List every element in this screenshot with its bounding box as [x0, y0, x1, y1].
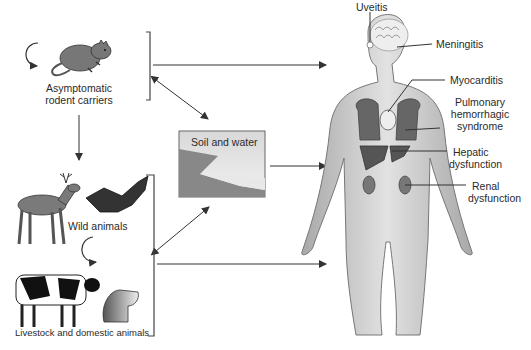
cycle-arrow-icon	[26, 43, 38, 66]
cycle-arrow-icon	[82, 237, 96, 262]
rodent-label: Asymptomatic rodent carriers	[34, 82, 124, 106]
label-hepatic-line1: Hepatic	[449, 146, 502, 158]
label-pulmonary-line3: syndrome	[440, 120, 520, 132]
human-body	[302, 15, 472, 335]
label-renal-line1: Renal	[468, 180, 521, 192]
label-pulmonary-line2: hemorrhagic	[440, 108, 520, 120]
label-myocarditis: Myocarditis	[450, 74, 503, 86]
wild-animals-label: Wild animals	[68, 220, 128, 232]
arrow-rodent-soil	[156, 80, 208, 119]
label-pulmonary-line1: Pulmonary	[440, 96, 520, 108]
rodent-label-line2: rodent carriers	[34, 94, 124, 106]
livestock-label: Livestock and domestic animals	[15, 327, 149, 339]
label-uveitis: Uveitis	[356, 1, 388, 13]
label-renal-line2: dysfunction	[468, 192, 521, 204]
label-pulmonary: Pulmonary hemorrhagic syndrome	[440, 96, 520, 132]
label-meningitis: Meningitis	[436, 38, 483, 50]
soil-water-label: Soil and water	[191, 136, 258, 148]
dog-icon	[103, 290, 138, 322]
bat-icon	[86, 176, 148, 212]
deer-icon	[18, 173, 80, 244]
rodent-icon	[52, 40, 111, 75]
rodent-bracket	[146, 32, 150, 100]
label-hepatic-line2: dysfunction	[449, 158, 502, 170]
arrow-animals-soil	[156, 207, 209, 251]
diagram-canvas	[0, 0, 531, 350]
cow-icon	[16, 275, 100, 327]
label-renal: Renal dysfunction	[468, 180, 521, 204]
rodent-label-line1: Asymptomatic	[34, 82, 124, 94]
animals-bracket	[146, 175, 154, 336]
label-hepatic: Hepatic dysfunction	[449, 146, 502, 170]
